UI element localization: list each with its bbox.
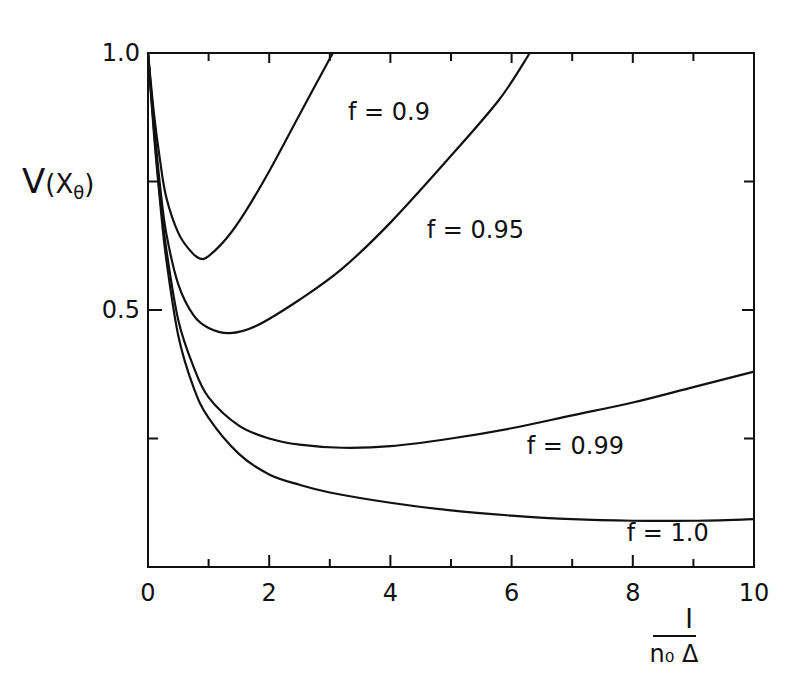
x-tick-label: 6: [504, 579, 519, 607]
y-axis-label: V(Xθ): [22, 161, 94, 203]
x-tick-label: 10: [739, 579, 770, 607]
chart: 02468100.51.0 f = 0.9f = 0.95f = 0.99f =…: [0, 0, 796, 689]
y-tick-label: 1.0: [102, 39, 140, 67]
x-axis-label-denominator: n₀ Δ: [650, 640, 699, 668]
curve-label: f = 0.9: [348, 98, 430, 126]
x-axis-label-numerator: I: [685, 604, 693, 634]
curve-f-0.9: [148, 53, 333, 259]
x-tick-label: 8: [625, 579, 640, 607]
curve-label: f = 0.95: [427, 216, 524, 244]
curve-f-0.99: [148, 53, 754, 448]
curve-label: f = 1.0: [627, 519, 709, 547]
plot-border: [148, 53, 754, 567]
x-tick-label: 2: [262, 579, 277, 607]
x-tick-label: 0: [140, 579, 155, 607]
curve-f-1.0: [148, 53, 754, 521]
curve-label: f = 0.99: [527, 432, 624, 460]
curve-labels: f = 0.9f = 0.95f = 0.99f = 1.0: [348, 98, 709, 547]
x-tick-label: 4: [383, 579, 398, 607]
data-curves: [148, 53, 754, 521]
curve-f-0.95: [148, 53, 530, 333]
plot-frame: [148, 53, 754, 567]
x-axis-label: I n₀ Δ: [650, 604, 699, 668]
y-tick-label: 0.5: [102, 296, 140, 324]
